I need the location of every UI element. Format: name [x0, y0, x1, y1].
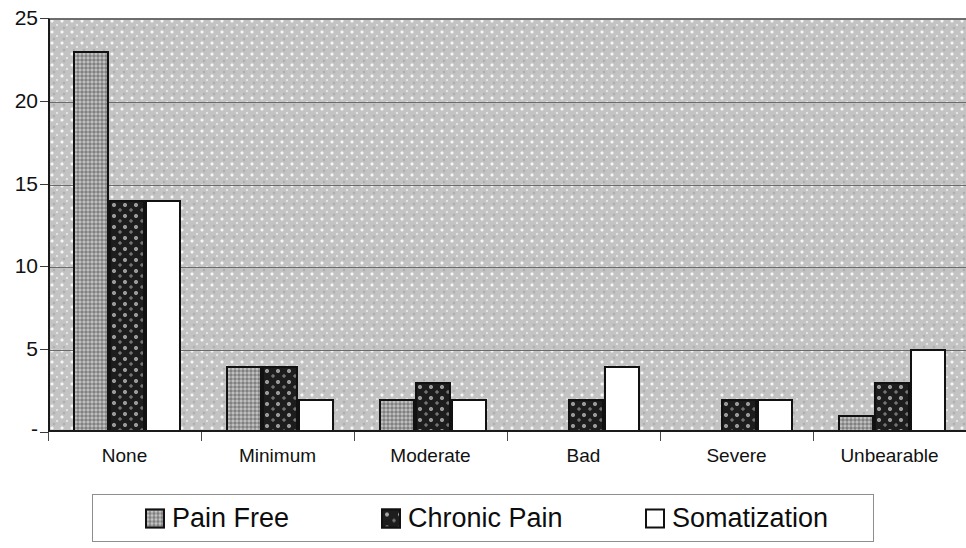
legend-label-chronic-pain: Chronic Pain	[408, 505, 563, 532]
bar	[379, 399, 415, 432]
x-axis-category-label: Moderate	[354, 446, 507, 467]
legend-swatch-icon-somatization	[645, 508, 665, 528]
x-axis-tick-mark	[660, 432, 661, 441]
bar	[451, 399, 487, 432]
x-axis-tick-mark	[48, 432, 49, 441]
legend-item-somatization: Somatization	[645, 505, 828, 532]
legend-label-pain-free: Pain Free	[172, 505, 289, 532]
x-axis-category-label: None	[48, 446, 201, 467]
bar	[415, 382, 451, 432]
bar-group	[685, 19, 793, 432]
y-axis-tick-label: 15	[0, 173, 38, 194]
y-axis-tick-label: -	[0, 418, 38, 439]
gridline	[50, 185, 966, 186]
plot-inner	[50, 19, 966, 432]
legend-item-chronic-pain: Chronic Pain	[381, 505, 563, 532]
x-axis-tick-mark	[507, 432, 508, 441]
plot-area	[48, 18, 966, 432]
bar	[298, 399, 334, 432]
x-axis-category-label: Unbearable	[813, 446, 966, 467]
y-axis-tick-label: 10	[0, 255, 38, 276]
y-axis-tick-label: 25	[0, 7, 38, 28]
chart-legend: Pain Free Chronic Pain Somatization	[92, 494, 874, 542]
x-axis-tick-mark	[813, 432, 814, 441]
bar-group	[532, 19, 640, 432]
x-axis-tick-mark	[201, 432, 202, 441]
legend-swatch-icon-chronic-pain	[381, 508, 401, 528]
bar	[73, 51, 109, 432]
x-axis-tick-mark	[354, 432, 355, 441]
bar	[262, 366, 298, 432]
legend-swatch-icon-pain-free	[145, 508, 165, 528]
bar	[874, 382, 910, 432]
legend-label-somatization: Somatization	[672, 505, 828, 532]
x-axis-baseline	[50, 430, 966, 432]
bar	[721, 399, 757, 432]
gridline	[50, 19, 966, 20]
bar-group	[379, 19, 487, 432]
bar	[109, 200, 145, 432]
bar-group	[838, 19, 946, 432]
legend-item-pain-free: Pain Free	[145, 505, 289, 532]
gridline	[50, 102, 966, 103]
x-axis-category-label: Severe	[660, 446, 813, 467]
bar	[145, 200, 181, 432]
y-axis-tick-label: 5	[0, 338, 38, 359]
bar	[226, 366, 262, 432]
x-axis-category-label: Minimum	[201, 446, 354, 467]
x-axis-category-label: Bad	[507, 446, 660, 467]
gridline	[50, 350, 966, 351]
bar	[757, 399, 793, 432]
bar	[910, 349, 946, 432]
bar-group	[73, 19, 181, 432]
bar	[568, 399, 604, 432]
bar	[604, 366, 640, 432]
y-axis-tick-label: 20	[0, 90, 38, 111]
gridline	[50, 267, 966, 268]
bar-chart: -510152025 NoneMinimumModerateBadSevereU…	[0, 0, 966, 548]
bar-group	[226, 19, 334, 432]
